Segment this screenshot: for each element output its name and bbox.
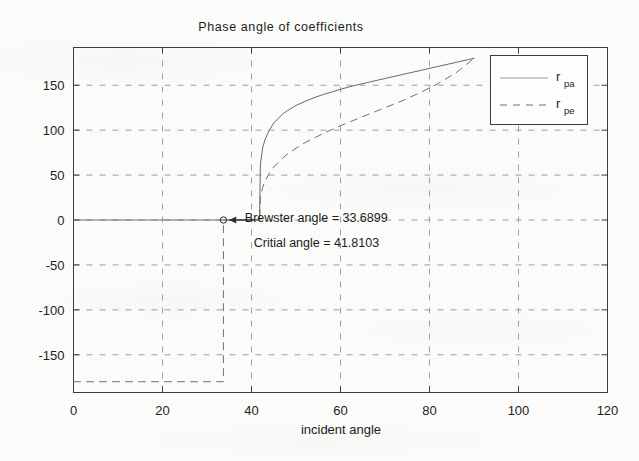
legend-label-r-pe: r bbox=[556, 96, 561, 111]
chart-legend[interactable]: r pa r pe bbox=[491, 56, 588, 125]
series-r_pa bbox=[74, 58, 475, 220]
y-tick-label: 100 bbox=[43, 123, 65, 138]
x-tick-label: 0 bbox=[70, 403, 77, 418]
brewster-arrow-head bbox=[229, 217, 236, 224]
critical-annotation: Critial angle = 41.8103 bbox=[254, 236, 379, 250]
y-tick-label: 50 bbox=[50, 168, 64, 183]
phase-angle-chart: Phase angle of coefficients 150100500-50… bbox=[0, 0, 639, 461]
y-tick-label: 150 bbox=[43, 78, 65, 93]
x-tick-label: 80 bbox=[422, 403, 436, 418]
brewster-annotation: Brewster angle = 33.6899 bbox=[245, 211, 388, 225]
x-tick-label: 20 bbox=[155, 403, 169, 418]
x-axis-tick-labels: 020406080100120 bbox=[70, 403, 618, 418]
x-tick-label: 120 bbox=[597, 403, 619, 418]
x-tick-label: 40 bbox=[244, 403, 258, 418]
x-tick-label: 60 bbox=[333, 403, 347, 418]
chart-annotations: Brewster angle = 33.6899Critial angle = … bbox=[245, 211, 388, 250]
legend-sublabel-r-pe: pe bbox=[564, 105, 575, 116]
legend-label-r-pa: r bbox=[556, 69, 561, 84]
y-axis-tick-labels: 150100500-50-100-150 bbox=[38, 78, 64, 363]
y-tick-label: 0 bbox=[57, 213, 64, 228]
y-tick-label: -150 bbox=[38, 348, 64, 363]
x-tick-label: 100 bbox=[508, 403, 530, 418]
y-tick-label: -100 bbox=[38, 303, 64, 318]
chart-title: Phase angle of coefficients bbox=[198, 20, 363, 34]
y-tick-label: -50 bbox=[46, 258, 65, 273]
x-axis-label: incident angle bbox=[301, 422, 381, 437]
legend-sublabel-r-pa: pa bbox=[564, 78, 575, 89]
